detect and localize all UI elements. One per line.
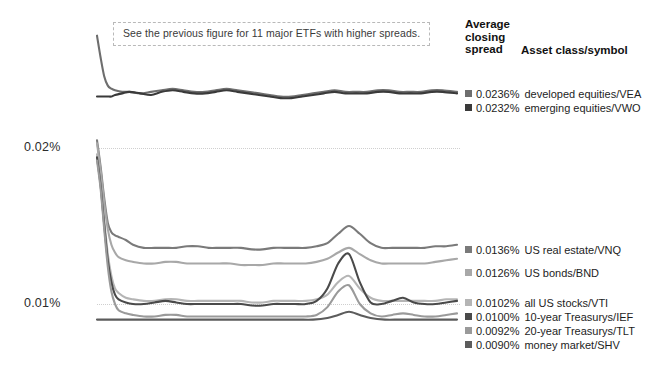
series-line-vea — [97, 36, 457, 97]
legend-swatch-icon — [465, 269, 472, 276]
legend-asset-label: emerging equities/VWO — [524, 102, 640, 114]
legend-item-tlt[interactable]: 0.0092%20-year Treasurys/TLT — [465, 321, 635, 334]
legend-item-bnd[interactable]: 0.0126%US bonds/BND — [465, 263, 599, 276]
legend-item-vnq[interactable]: 0.0136%US real estate/VNQ — [465, 240, 621, 253]
series-line-tlt — [97, 160, 457, 316]
legend-header-line2: closing — [465, 31, 510, 44]
legend-swatch-icon — [465, 90, 472, 97]
legend-header-spread: Average closing spread — [465, 18, 510, 56]
legend-item-ief[interactable]: 0.0100%10-year Treasurys/IEF — [465, 307, 633, 320]
legend-asset-label: US real estate/VNQ — [524, 244, 621, 256]
legend-swatch-icon — [465, 313, 472, 320]
series-line-ief — [97, 157, 457, 305]
legend-swatch-icon — [465, 341, 472, 348]
chart-figure: See the previous figure for 11 major ETF… — [0, 0, 662, 365]
series-line-vnq — [97, 140, 457, 249]
legend-header-asset-class: Asset class/symbol — [521, 44, 628, 57]
legend-spread-value: 0.0232% — [476, 102, 519, 114]
legend-item-shv[interactable]: 0.0090%money market/SHV — [465, 335, 620, 348]
legend-spread-value: 0.0090% — [476, 339, 519, 351]
legend-swatch-icon — [465, 327, 472, 334]
legend-header-line1: Average — [465, 18, 510, 31]
legend-swatch-icon — [465, 104, 472, 111]
series-line-vti — [97, 154, 457, 302]
legend-item-vea[interactable]: 0.0236%developed equities/VEA — [465, 84, 641, 97]
legend-spread-value: 0.0136% — [476, 244, 519, 256]
legend-swatch-icon — [465, 246, 472, 253]
legend-asset-label: money market/SHV — [524, 339, 619, 351]
legend-spread-value: 0.0126% — [476, 267, 519, 279]
legend-item-vti[interactable]: 0.0102%all US stocks/VTI — [465, 293, 608, 306]
legend-swatch-icon — [465, 299, 472, 306]
legend-header-line3: spread — [465, 43, 510, 56]
legend: Average closing spread Asset class/symbo… — [465, 0, 662, 365]
legend-asset-label: US bonds/BND — [524, 267, 599, 279]
legend-item-vwo[interactable]: 0.0232%emerging equities/VWO — [465, 98, 641, 111]
